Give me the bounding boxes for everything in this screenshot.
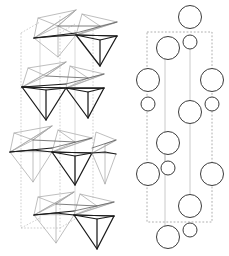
crystal-structure-figure	[0, 0, 229, 256]
tetrahedra-group-1	[34, 10, 117, 66]
atom-large-10	[157, 226, 180, 249]
atoms-layer	[137, 6, 224, 249]
atom-large-6	[157, 132, 180, 155]
atom-large-7	[137, 163, 160, 186]
atom-small-5	[183, 223, 197, 237]
tetrahedra-group-3	[10, 126, 116, 185]
atom-small-2	[141, 97, 155, 111]
left-unit-cell-edges	[21, 16, 93, 232]
tetrahedra-group-2	[22, 62, 104, 120]
unit-cell-box	[147, 32, 212, 222]
atom-large-9	[179, 195, 202, 218]
atom-large-2	[157, 37, 180, 60]
atom-large-3	[137, 69, 160, 92]
atom-large-4	[201, 69, 224, 92]
atom-large-5	[179, 101, 202, 124]
atom-large-1	[179, 6, 202, 29]
atom-small-4	[161, 161, 175, 175]
atom-small-1	[183, 35, 197, 49]
atom-small-3	[205, 97, 219, 111]
tetrahedra-group-4	[34, 192, 114, 249]
figure-root	[0, 0, 229, 256]
atom-large-8	[201, 163, 224, 186]
